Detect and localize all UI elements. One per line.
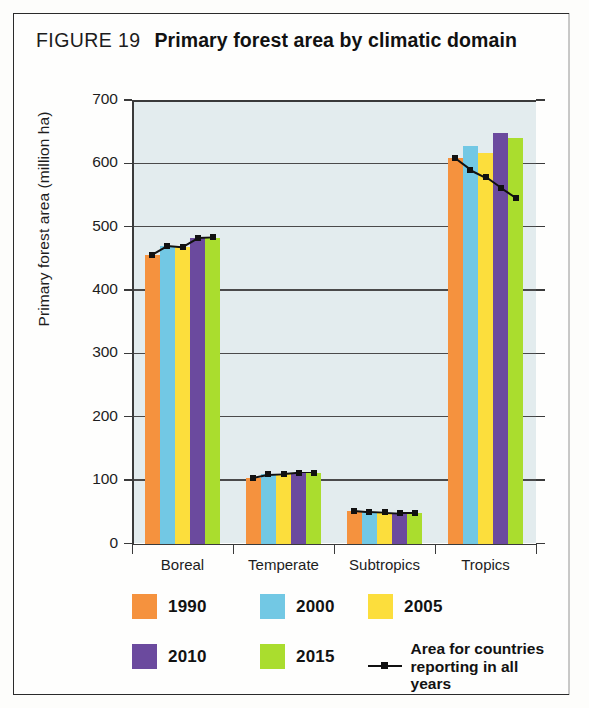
y-tick-mark [124, 543, 132, 544]
y-tick-label: 500 [66, 217, 118, 235]
x-tick-label: Subtropics [334, 556, 435, 573]
y-tick-mark-right [536, 353, 545, 354]
plot-top-border [132, 100, 536, 102]
overlay-line-marker [467, 167, 473, 173]
y-tick-mark [124, 226, 132, 227]
overlay-line-marker [164, 243, 170, 249]
bar [407, 513, 422, 543]
overlay-line-marker [452, 155, 458, 161]
overlay-line-marker [149, 252, 155, 258]
y-tick-label: 200 [66, 407, 118, 425]
x-tick-label: Temperate [233, 556, 334, 573]
legend-item[interactable]: 1990 [132, 594, 207, 619]
overlay-line-marker [265, 471, 271, 477]
y-tick-mark-right [536, 163, 545, 164]
legend-label-overlay-line: Area for countriesreporting in all years [411, 640, 552, 693]
overlay-line-marker [483, 174, 489, 180]
legend-item[interactable]: 2015 [260, 644, 335, 669]
legend-label-line2: reporting in all years [411, 658, 552, 693]
overlay-line-marker [250, 475, 256, 481]
y-tick-mark-right [536, 226, 545, 227]
legend-item[interactable]: 2000 [260, 594, 335, 619]
y-tick-mark [124, 99, 132, 100]
overlay-line-marker [195, 235, 201, 241]
x-tick-mark [435, 544, 436, 554]
overlay-line-marker [513, 195, 519, 201]
legend-item[interactable]: 2010 [132, 644, 207, 669]
x-tick-label: Tropics [435, 556, 536, 573]
y-axis-line [132, 100, 134, 545]
bar [246, 478, 261, 544]
overlay-line-marker [366, 509, 372, 515]
legend-label: 2000 [296, 597, 335, 617]
bar [493, 133, 508, 544]
legend-label-line1: Area for countries [411, 640, 552, 658]
bar [392, 513, 407, 543]
legend-label: 2010 [168, 647, 207, 667]
bar [463, 146, 478, 543]
line-marker-icon [368, 660, 400, 672]
y-tick-label: 300 [66, 343, 118, 361]
legend-item-overlay-line[interactable]: Area for countriesreporting in all years [368, 640, 552, 693]
overlay-line-marker [412, 510, 418, 516]
bar [306, 473, 321, 544]
y-tick-label: 600 [66, 153, 118, 171]
bar [190, 238, 205, 543]
bar [478, 153, 493, 544]
x-tick-label: Boreal [132, 556, 233, 573]
x-axis-end-tick [536, 544, 537, 554]
y-tick-mark [124, 163, 132, 164]
x-tick-mark [334, 544, 335, 554]
overlay-line-marker [351, 508, 357, 514]
y-tick-mark-right [536, 479, 545, 480]
legend-label: 2015 [296, 647, 335, 667]
y-axis-label: Primary forest area (million ha) [35, 109, 53, 329]
y-tick-label: 100 [66, 470, 118, 488]
legend-label: 1990 [168, 597, 207, 617]
y-tick-mark [124, 416, 132, 417]
overlay-line-marker [281, 471, 287, 477]
overlay-line-marker [210, 234, 216, 240]
overlay-line-marker [180, 244, 186, 250]
legend-swatch [132, 594, 157, 619]
bar [291, 473, 306, 544]
legend-label: 2005 [404, 597, 443, 617]
bar [205, 238, 220, 544]
bar [145, 255, 160, 544]
bar [261, 474, 276, 543]
overlay-line-marker [311, 470, 317, 476]
x-axis-end-tick [132, 544, 133, 554]
bar [347, 511, 362, 544]
bars-layer [132, 100, 536, 544]
legend-swatch [260, 644, 285, 669]
overlay-line-marker [296, 470, 302, 476]
y-tick-mark [124, 479, 132, 480]
legend-item[interactable]: 2005 [368, 594, 443, 619]
y-tick-mark-right [536, 416, 545, 417]
legend-swatch [132, 644, 157, 669]
bar [377, 513, 392, 543]
x-tick-mark [233, 544, 234, 554]
y-tick-label: 700 [66, 90, 118, 108]
y-tick-mark [124, 289, 132, 290]
y-tick-label: 400 [66, 280, 118, 298]
bar [362, 512, 377, 543]
y-tick-label: 0 [66, 534, 118, 552]
legend: 19902000200520102015Area for countriesre… [132, 594, 552, 690]
overlay-line-marker [382, 509, 388, 515]
overlay-line-marker [397, 510, 403, 516]
y-tick-mark-right [536, 99, 545, 100]
bar [276, 474, 291, 544]
bar [448, 158, 463, 543]
figure-page: FIGURE 19 Primary forest area by climati… [0, 0, 589, 708]
legend-swatch [368, 594, 393, 619]
y-tick-mark-right [536, 289, 545, 290]
y-tick-mark [124, 353, 132, 354]
bar [160, 246, 175, 544]
legend-swatch [260, 594, 285, 619]
overlay-line-marker [498, 185, 504, 191]
bar [175, 247, 190, 544]
